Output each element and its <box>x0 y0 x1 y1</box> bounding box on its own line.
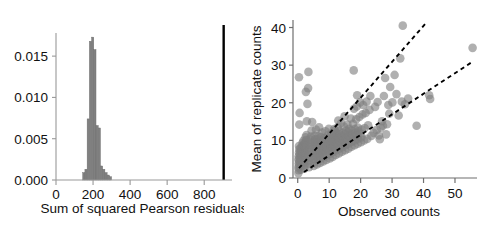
histogram-bar <box>100 166 102 180</box>
scatter-point <box>386 83 395 92</box>
histogram-bar <box>96 125 98 180</box>
scatter-y-tick-label: 10 <box>271 133 286 148</box>
scatter-y-tick-label: 30 <box>271 58 286 73</box>
scatter-point <box>304 68 313 77</box>
histogram-y-tick-labels: 0.0000.0050.0100.015 <box>14 49 48 188</box>
histogram-bar <box>105 173 107 180</box>
scatter-point <box>380 92 389 101</box>
scatter-panel: 010203040 Mean of replicate counts 01020… <box>244 0 488 233</box>
histogram-bar <box>83 173 85 180</box>
scatter-x-tick-label: 30 <box>385 186 400 201</box>
scatter-point <box>392 90 401 99</box>
scatter-x-axis-title: Observed counts <box>338 204 440 219</box>
histogram-bar <box>92 37 94 180</box>
scatter-svg: 010203040 Mean of replicate counts 01020… <box>244 0 488 233</box>
scatter-x-ticks <box>298 178 455 183</box>
histogram-x-tick-label: 200 <box>82 187 105 202</box>
histogram-y-tick-label: 0.000 <box>14 173 48 188</box>
scatter-point <box>381 74 390 83</box>
histogram-x-tick-labels: 0200400600800 <box>52 187 215 202</box>
scatter-y-tick-label: 0 <box>278 171 286 186</box>
scatter-x-tick-label: 10 <box>322 186 337 201</box>
histogram-plot-area <box>83 25 224 180</box>
histogram-y-tick-label: 0.015 <box>14 49 48 64</box>
histogram-x-tick-label: 400 <box>119 187 142 202</box>
scatter-x-tick-label: 40 <box>416 186 431 201</box>
scatter-point <box>366 92 375 101</box>
scatter-x-tick-label: 20 <box>353 186 368 201</box>
scatter-y-tick-label: 20 <box>271 96 286 111</box>
scatter-point <box>398 21 407 30</box>
scatter-x-tick-labels: 01020304050 <box>294 186 463 201</box>
scatter-points-group <box>294 21 477 177</box>
scatter-point <box>295 120 304 129</box>
histogram-panel: 0.0000.0050.0100.015 0200400600800 Sum o… <box>0 0 244 233</box>
scatter-x-tick-label: 50 <box>447 186 462 201</box>
scatter-point <box>303 100 312 109</box>
scatter-point <box>388 98 397 107</box>
scatter-y-tick-labels: 010203040 <box>271 21 286 186</box>
scatter-y-tick-label: 40 <box>271 21 286 36</box>
scatter-point <box>382 130 391 139</box>
histogram-y-tick-label: 0.005 <box>14 132 48 147</box>
scatter-point <box>468 44 477 53</box>
histogram-y-ticks <box>52 56 56 180</box>
scatter-point <box>349 66 358 75</box>
scatter-x-tick-label: 0 <box>294 186 302 201</box>
scatter-point <box>304 84 313 93</box>
histogram-bar <box>85 169 87 180</box>
histogram-bar <box>89 41 91 180</box>
histogram-x-tick-label: 800 <box>193 187 216 202</box>
scatter-point <box>383 120 392 129</box>
histogram-y-tick-label: 0.010 <box>14 90 48 105</box>
scatter-point <box>295 109 304 118</box>
histogram-x-axis-title: Sum of squared Pearson residuals <box>40 201 244 216</box>
histogram-bar <box>94 50 96 180</box>
scatter-y-axis-title: Mean of replicate counts <box>249 25 264 172</box>
scatter-point <box>426 95 435 104</box>
histogram-x-ticks <box>56 180 204 185</box>
histogram-bar <box>98 128 100 180</box>
figure-container: 0.0000.0050.0100.015 0200400600800 Sum o… <box>0 0 488 233</box>
scatter-point <box>390 71 399 80</box>
histogram-bar <box>107 175 109 180</box>
histogram-x-tick-label: 0 <box>52 187 60 202</box>
scatter-point <box>295 73 304 82</box>
scatter-point <box>412 121 421 130</box>
scatter-point <box>373 98 382 107</box>
scatter-point <box>308 118 317 127</box>
histogram-bar <box>103 169 105 180</box>
histogram-bar <box>87 119 89 180</box>
histogram-x-tick-label: 600 <box>156 187 179 202</box>
scatter-y-ticks <box>289 28 293 178</box>
histogram-svg: 0.0000.0050.0100.015 0200400600800 Sum o… <box>0 0 244 233</box>
